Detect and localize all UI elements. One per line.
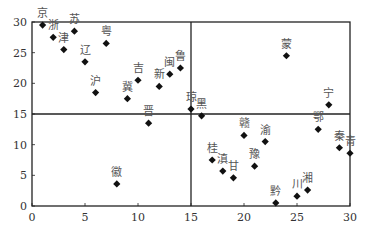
y-tick-label: 10: [13, 139, 27, 152]
x-tick-label: 15: [184, 211, 198, 224]
diamond-marker-icon: [187, 105, 194, 112]
data-point: 琼: [186, 90, 197, 113]
point-label: 吉: [133, 62, 144, 75]
diamond-marker-icon: [81, 58, 88, 65]
diamond-marker-icon: [177, 64, 184, 71]
point-label: 粤: [101, 24, 112, 38]
point-label: 湘: [302, 171, 313, 185]
point-label: 冀: [122, 80, 133, 94]
data-point: 津: [58, 32, 69, 54]
y-tick-label: 25: [13, 47, 27, 60]
data-point: 黑: [196, 98, 207, 120]
data-point: 蒙: [281, 38, 292, 60]
point-label: 蒙: [281, 38, 292, 51]
point-label: 晋: [143, 105, 154, 118]
diamond-marker-icon: [124, 95, 131, 102]
diamond-marker-icon: [304, 186, 311, 193]
y-tick-label: 5: [20, 169, 27, 182]
point-label: 鲁: [175, 49, 186, 63]
y-tick-label: 0: [20, 200, 27, 213]
point-label: 黔: [270, 184, 281, 198]
point-label: 新: [154, 67, 165, 81]
diamond-marker-icon: [293, 193, 300, 200]
diamond-marker-icon: [134, 77, 141, 84]
data-point: 甘: [228, 160, 239, 182]
point-label: 宁: [323, 86, 334, 100]
data-point: 宁: [323, 86, 334, 109]
point-label: 闽: [164, 56, 175, 69]
data-point: 吉: [133, 62, 144, 84]
diamond-marker-icon: [262, 138, 269, 145]
diamond-marker-icon: [156, 83, 163, 90]
diamond-marker-icon: [103, 40, 110, 47]
data-point: 黔: [270, 184, 281, 207]
data-point: 湘: [302, 171, 313, 194]
x-tick-label: 10: [131, 211, 145, 224]
point-label: 沪: [90, 74, 101, 88]
data-point: 京: [37, 6, 48, 29]
chart-canvas: 051015202530051015202530 京浙津苏辽沪粤徽冀吉晋新闽鲁琼…: [0, 0, 371, 236]
diamond-marker-icon: [198, 112, 205, 119]
data-point: 闽: [164, 56, 175, 78]
point-label: 青: [345, 135, 356, 148]
x-tick-label: 0: [29, 211, 36, 224]
data-point: 沪: [90, 74, 101, 97]
point-label: 琼: [186, 90, 197, 104]
diamond-marker-icon: [325, 101, 332, 108]
diamond-marker-icon: [113, 180, 120, 187]
data-point: 川: [292, 178, 303, 200]
point-label: 渝: [260, 123, 271, 137]
diamond-marker-icon: [50, 34, 57, 41]
diamond-marker-icon: [315, 126, 322, 133]
diamond-marker-icon: [92, 89, 99, 96]
data-point: 渝: [260, 123, 271, 146]
diamond-marker-icon: [71, 28, 78, 35]
data-point: 青: [345, 135, 356, 157]
data-point: 晋: [143, 105, 154, 127]
data-point: 苏: [69, 13, 80, 35]
diamond-marker-icon: [166, 71, 173, 78]
point-label: 津: [58, 32, 69, 45]
data-point: 辽: [80, 44, 91, 66]
diamond-marker-icon: [209, 156, 216, 163]
data-point: 冀: [122, 80, 133, 103]
data-point: 粤: [101, 24, 112, 47]
data-points: 京浙津苏辽沪粤徽冀吉晋新闽鲁琼黑桂滇甘赣豫渝黔蒙川湘鄂宁秦青: [37, 6, 355, 206]
data-point: 赣: [239, 116, 250, 139]
data-point: 新: [154, 67, 165, 90]
diamond-marker-icon: [346, 150, 353, 157]
data-point: 秦: [334, 129, 345, 152]
data-point: 滇: [217, 152, 228, 175]
diamond-marker-icon: [219, 167, 226, 174]
diamond-marker-icon: [240, 132, 247, 139]
diamond-marker-icon: [145, 120, 152, 127]
point-label: 京: [37, 6, 48, 20]
y-tick-label: 20: [13, 77, 27, 90]
y-tick-label: 15: [13, 108, 27, 121]
x-tick-label: 25: [290, 211, 304, 224]
x-tick-label: 20: [237, 211, 251, 224]
data-point: 浙: [48, 19, 59, 41]
data-point: 鄂: [313, 111, 324, 133]
point-label: 鄂: [313, 111, 324, 124]
data-point: 桂: [207, 141, 218, 164]
point-label: 黑: [196, 98, 207, 111]
point-label: 豫: [249, 148, 260, 161]
x-tick-label: 30: [343, 211, 357, 224]
point-label: 徽: [111, 165, 122, 179]
data-point: 豫: [249, 148, 260, 170]
point-label: 浙: [48, 19, 59, 32]
data-point: 鲁: [175, 49, 186, 72]
x-tick-label: 5: [82, 211, 89, 224]
point-label: 滇: [217, 152, 228, 166]
diamond-marker-icon: [336, 144, 343, 151]
diamond-marker-icon: [230, 174, 237, 181]
scatter-chart: 051015202530051015202530 京浙津苏辽沪粤徽冀吉晋新闽鲁琼…: [0, 0, 371, 236]
data-point: 徽: [111, 165, 122, 188]
point-label: 秦: [334, 129, 345, 143]
diamond-marker-icon: [283, 52, 290, 59]
point-label: 苏: [69, 13, 80, 26]
diamond-marker-icon: [251, 163, 258, 170]
diamond-marker-icon: [60, 46, 67, 53]
y-tick-label: 30: [13, 16, 27, 29]
